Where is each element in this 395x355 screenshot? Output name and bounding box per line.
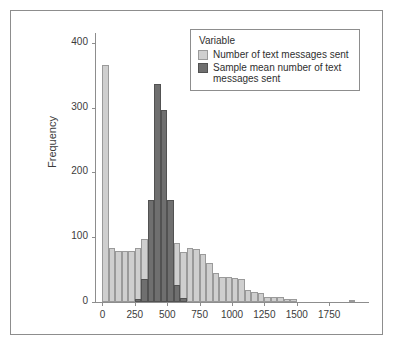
histogram-bar-messages: [245, 290, 251, 302]
histogram-bar-messages: [271, 297, 277, 302]
x-tick-label: 0: [100, 309, 106, 320]
histogram-bar-messages: [213, 273, 219, 302]
y-tick-label: 200: [71, 165, 88, 176]
y-axis-title: Frequency: [46, 116, 58, 168]
legend: Variable Number of text messages sent Sa…: [190, 29, 360, 91]
x-tick-label: 1250: [253, 309, 275, 320]
histogram-bar-sample-mean: [180, 298, 186, 302]
y-tick-label: 100: [71, 230, 88, 241]
y-tick-label: 400: [71, 36, 88, 47]
y-tick-label: 300: [71, 101, 88, 112]
histogram-bar-messages: [226, 277, 232, 302]
x-tick-mark: [329, 302, 330, 306]
figure-canvas: Frequency 0100200300400 0250500750100012…: [0, 0, 395, 355]
y-tick-mark: [92, 108, 96, 109]
x-tick-label: 750: [191, 309, 208, 320]
histogram-bar-messages: [258, 293, 264, 302]
y-tick-mark: [92, 43, 96, 44]
histogram-bar-sample-mean: [161, 110, 167, 303]
legend-item-messages: Number of text messages sent: [198, 49, 352, 60]
legend-title: Variable: [199, 35, 352, 46]
legend-swatch-messages: [198, 50, 208, 60]
histogram-bar-messages: [349, 300, 355, 302]
x-tick-mark: [102, 302, 103, 306]
x-tick-mark: [200, 302, 201, 306]
histogram-bar-messages: [200, 254, 206, 302]
histogram-bar-messages: [284, 299, 290, 302]
histogram-bar-messages: [109, 248, 115, 302]
histogram-bar-messages: [187, 248, 193, 302]
y-tick-label: 0: [82, 295, 88, 306]
histogram-bar-messages: [135, 248, 141, 302]
legend-label-sample-mean: Sample mean number of text messages sent: [213, 62, 352, 84]
y-tick-mark: [92, 172, 96, 173]
x-tick-label: 500: [159, 309, 176, 320]
x-tick-mark: [264, 302, 265, 306]
x-tick-mark: [167, 302, 168, 306]
x-tick-label: 1750: [318, 309, 340, 320]
x-tick-mark: [297, 302, 298, 306]
x-tick-label: 250: [127, 309, 144, 320]
x-tick-label: 1000: [221, 309, 243, 320]
legend-label-messages: Number of text messages sent: [213, 49, 349, 60]
x-tick-label: 1500: [286, 309, 308, 320]
histogram-bar-messages: [290, 299, 296, 302]
histogram-bar-sample-mean: [148, 200, 154, 302]
histogram-bar-sample-mean: [135, 299, 141, 302]
legend-swatch-sample-mean: [198, 63, 208, 73]
histogram-bar-sample-mean: [174, 285, 180, 302]
y-tick-mark: [92, 302, 96, 303]
legend-item-sample-mean: Sample mean number of text messages sent: [198, 62, 352, 84]
y-tick-mark: [92, 237, 96, 238]
histogram-bar-messages: [122, 251, 128, 302]
x-tick-mark: [232, 302, 233, 306]
x-tick-mark: [135, 302, 136, 306]
